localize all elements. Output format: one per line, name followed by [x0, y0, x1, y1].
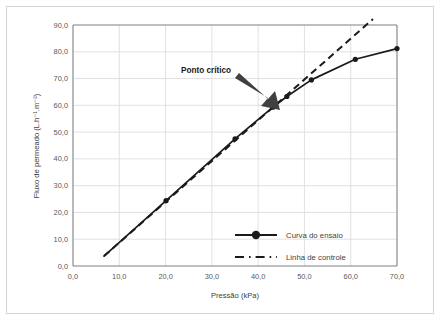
x-tick-label: 10,0 — [112, 272, 126, 281]
y-tick-label: 10,0 — [54, 235, 68, 244]
data-point-marker — [309, 77, 314, 82]
legend-label-curva-do-ensaio: Curva do ensaio — [286, 231, 343, 240]
x-tick-label: 0,0 — [68, 272, 78, 281]
y-tick-label: 0,0 — [58, 262, 68, 271]
x-axis-title: Pressão (kPa) — [211, 291, 260, 300]
legend-swatch-marker — [252, 231, 260, 239]
figure-frame: 0,010,020,030,040,050,060,070,080,090,0 … — [6, 6, 434, 314]
y-tick-label: 20,0 — [54, 208, 68, 217]
data-point-marker — [232, 136, 237, 141]
y-tick-label: 40,0 — [54, 154, 68, 163]
permeate-flux-chart: 0,010,020,030,040,050,060,070,080,090,0 … — [7, 7, 433, 313]
y-tick-labels: 0,010,020,030,040,050,060,070,080,090,0 — [54, 21, 68, 271]
data-point-marker — [163, 198, 168, 203]
data-point-marker — [284, 94, 289, 99]
legend-label-linha-de-controle: Linha de controle — [286, 253, 346, 262]
y-tick-label: 60,0 — [54, 101, 68, 110]
x-tick-label: 50,0 — [297, 272, 311, 281]
y-tick-label: 50,0 — [54, 128, 68, 137]
plot-area-background — [73, 25, 397, 266]
y-tick-label: 70,0 — [54, 74, 68, 83]
x-tick-label: 60,0 — [344, 272, 358, 281]
x-tick-label: 40,0 — [251, 272, 265, 281]
x-tick-labels: 0,010,020,030,040,050,060,070,0 — [68, 272, 404, 281]
y-axis-title: Fluxo de permeado (L.h⁻¹.m⁻²) — [32, 93, 41, 198]
x-tick-label: 20,0 — [158, 272, 172, 281]
data-point-marker — [394, 46, 399, 51]
data-point-marker — [353, 57, 358, 62]
y-tick-label: 90,0 — [54, 21, 68, 30]
y-tick-label: 30,0 — [54, 181, 68, 190]
x-tick-label: 30,0 — [205, 272, 219, 281]
x-tick-label: 70,0 — [390, 272, 404, 281]
annotation-label: Ponto crítico — [181, 66, 231, 75]
y-tick-label: 80,0 — [54, 47, 68, 56]
